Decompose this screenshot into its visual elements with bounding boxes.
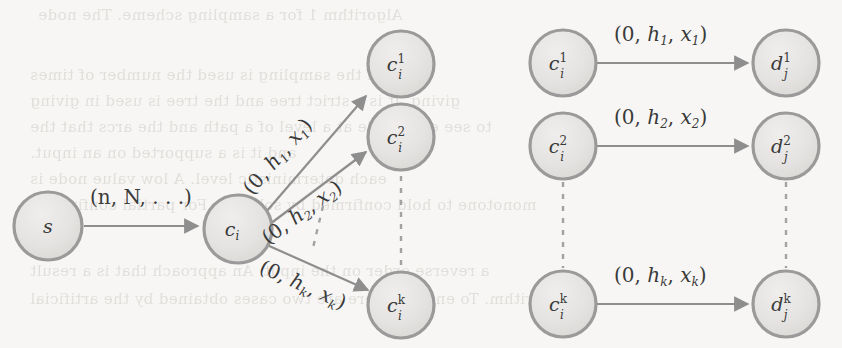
edge-label-ci2-dj2: (0, h2, x2) <box>614 105 707 131</box>
node-s-label: s <box>43 215 53 237</box>
edge-label-cik-djk: (0, hk, xk) <box>614 263 707 289</box>
node-ci-1[interactable]: c1i <box>368 31 434 97</box>
node-dj-2[interactable]: d2j <box>753 113 819 179</box>
node-right-ci-2[interactable]: c2i <box>530 113 596 179</box>
diagram-svg: s ci c1i c2i cki <box>0 0 842 348</box>
edge-label-ci-ci1: (0, h1, x1) <box>238 113 319 200</box>
node-ci-2[interactable]: c2i <box>368 104 434 170</box>
edge-label-s-ci: (n, N, . . .) <box>90 185 192 209</box>
node-ci-k[interactable]: cki <box>368 272 434 338</box>
figure-container: Algorithm 1 for a sampling scheme. The n… <box>0 0 842 348</box>
node-right-ci-1[interactable]: c1i <box>530 30 596 96</box>
node-dj-k[interactable]: dkj <box>753 271 819 337</box>
edge-label-ci-cik: (0, hk, xk) <box>255 255 350 316</box>
edge-label-ci-ci2: (0, h2, x2) <box>257 175 348 251</box>
node-right-ci-k[interactable]: cki <box>530 271 596 337</box>
node-s[interactable]: s <box>14 192 82 260</box>
edge-label-ci1-dj1: (0, h1, x1) <box>614 22 707 48</box>
node-dj-1[interactable]: d1j <box>753 30 819 96</box>
